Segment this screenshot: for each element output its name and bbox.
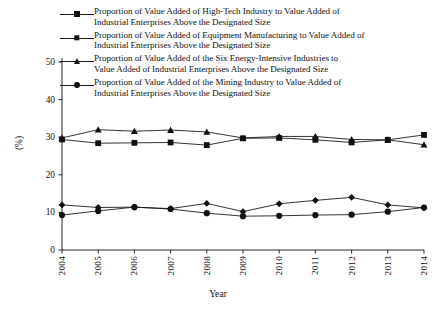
- x-tick-label: 2004: [57, 256, 67, 275]
- x-tick-label: 2012: [347, 256, 357, 275]
- legend-marker-diamond-icon: [60, 8, 94, 21]
- legend-item-high-tech: Proportion of Value Added of High-Tech I…: [60, 6, 432, 27]
- x-tick-label: 2005: [93, 256, 103, 275]
- y-tick-label: 10: [33, 207, 55, 217]
- data-point-square: [168, 140, 174, 146]
- y-tick-label: 20: [33, 170, 55, 180]
- data-point-circle: [421, 204, 427, 210]
- legend-label-equipment-manufacturing: Proportion of Value Added of Equipment M…: [94, 30, 364, 51]
- data-point-square: [204, 142, 210, 148]
- legend-marker-circle-icon: [60, 79, 94, 92]
- data-point-diamond: [312, 197, 319, 204]
- data-point-diamond: [59, 201, 66, 208]
- data-point-diamond: [276, 200, 283, 207]
- data-point-diamond: [348, 194, 355, 201]
- legend-label-high-tech: Proportion of Value Added of High-Tech I…: [94, 6, 340, 27]
- data-point-square: [421, 132, 427, 138]
- x-tick-label: 2011: [310, 256, 320, 275]
- data-point-circle: [385, 209, 391, 215]
- data-point-circle: [168, 206, 174, 212]
- data-point-square: [132, 140, 138, 146]
- y-tick-label: 50: [33, 57, 55, 67]
- series-1: [59, 194, 428, 215]
- legend-label-six-energy-intensive: Proportion of Value Added of the Six Ene…: [94, 53, 338, 74]
- legend-item-mining: Proportion of Value Added of the Mining …: [60, 77, 432, 98]
- legend-item-six-energy-intensive: Proportion of Value Added of the Six Ene…: [60, 53, 432, 74]
- legend-marker-square-icon: [60, 32, 94, 45]
- data-point-diamond: [384, 201, 391, 208]
- data-point-square: [95, 140, 101, 146]
- data-point-circle: [240, 213, 246, 219]
- x-tick-label: 2013: [383, 256, 393, 275]
- data-point-circle: [204, 210, 210, 216]
- x-tick-label: 2010: [274, 256, 284, 275]
- x-axis-title: Year: [0, 288, 436, 299]
- series-3: [59, 126, 428, 147]
- data-point-circle: [276, 213, 282, 219]
- data-point-circle: [95, 208, 101, 214]
- data-point-circle: [349, 212, 355, 218]
- legend-item-equipment-manufacturing: Proportion of Value Added of Equipment M…: [60, 30, 432, 51]
- x-tick-label: 2009: [238, 256, 248, 275]
- chart-legend: Proportion of Value Added of High-Tech I…: [60, 6, 432, 101]
- data-point-circle: [59, 212, 65, 218]
- data-point-circle: [131, 204, 137, 210]
- legend-marker-triangle-icon: [60, 55, 94, 68]
- x-tick-label: 2014: [419, 256, 429, 275]
- y-axis-title: (%): [14, 136, 24, 150]
- data-point-diamond: [203, 200, 210, 207]
- y-tick-label: 0: [33, 245, 55, 255]
- legend-label-mining: Proportion of Value Added of the Mining …: [94, 77, 341, 98]
- chart-figure: Proportion of Value Added of High-Tech I…: [0, 0, 436, 309]
- y-tick-label: 30: [33, 132, 55, 142]
- data-point-circle: [312, 212, 318, 218]
- y-tick-label: 40: [33, 95, 55, 105]
- x-tick-label: 2008: [202, 256, 212, 275]
- x-tick-label: 2007: [166, 256, 176, 275]
- x-tick-label: 2006: [129, 256, 139, 275]
